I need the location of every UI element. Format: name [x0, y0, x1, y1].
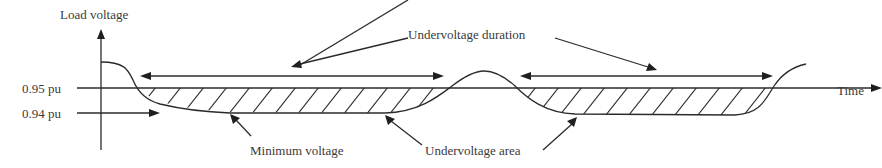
- y-axis: [97, 29, 105, 150]
- y-axis-label: Load voltage: [60, 8, 128, 21]
- duration-label: Undervoltage duration: [408, 28, 525, 41]
- undervoltage-area-label: Undervoltage area: [425, 144, 521, 157]
- duration-arrow-1: [140, 72, 444, 80]
- arrow-pointer-icon: [291, 60, 302, 68]
- y-axis-arrow-icon: [97, 29, 105, 39]
- time-axis-095: [77, 84, 882, 92]
- arrow-pointer-icon: [646, 63, 657, 71]
- minimum-voltage-label: Minimum voltage: [250, 144, 344, 157]
- duration-arrow-2: [520, 72, 773, 80]
- level-095-label: 0.95 pu: [22, 82, 61, 95]
- x-axis-label: Time: [837, 84, 864, 97]
- level-094-arrow: [77, 109, 160, 117]
- level-094-label: 0.94 pu: [22, 107, 61, 120]
- arrow-left-icon: [140, 72, 151, 80]
- arrow-right-icon: [149, 109, 160, 117]
- minimum-voltage-leader: [230, 114, 251, 136]
- arrow-right-icon: [433, 72, 444, 80]
- time-axis-arrow-icon: [871, 84, 882, 92]
- arrow-pointer-icon: [567, 117, 577, 127]
- arrow-left-icon: [520, 72, 531, 80]
- arrow-right-icon: [762, 72, 773, 80]
